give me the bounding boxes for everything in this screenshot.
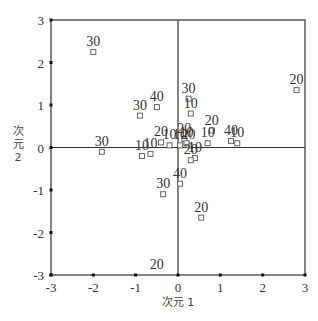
x-tick-label: -1 bbox=[130, 280, 141, 295]
y-tick-mark bbox=[50, 231, 53, 234]
square-marker-icon bbox=[199, 215, 204, 220]
x-tick-label: 2 bbox=[259, 280, 266, 295]
point-label: 30 bbox=[86, 34, 100, 49]
x-tick-label: 0 bbox=[175, 280, 182, 295]
data-point: 10 bbox=[201, 125, 215, 146]
data-point: 20 bbox=[150, 257, 164, 272]
square-marker-icon bbox=[178, 181, 183, 186]
x-tick-label: 3 bbox=[302, 280, 309, 295]
point-label: 30 bbox=[95, 134, 109, 149]
square-marker-icon bbox=[99, 149, 104, 154]
point-label: 10 bbox=[184, 96, 198, 111]
x-tick-label: -3 bbox=[46, 280, 57, 295]
x-tick-label: -2 bbox=[88, 280, 99, 295]
data-point: 30 bbox=[133, 98, 147, 119]
y-tick-label: -3 bbox=[33, 268, 44, 283]
x-tick-mark bbox=[92, 274, 95, 277]
point-label: 30 bbox=[133, 98, 147, 113]
y-axis-title: 次元2 bbox=[13, 124, 24, 164]
x-tick-mark bbox=[261, 274, 264, 277]
y-tick-mark bbox=[50, 189, 53, 192]
y-tick-label: 2 bbox=[38, 56, 45, 71]
point-label: 20 bbox=[184, 142, 198, 157]
y-tick-label: -1 bbox=[33, 183, 44, 198]
square-marker-icon bbox=[188, 111, 193, 116]
square-marker-icon bbox=[167, 143, 172, 148]
square-marker-icon bbox=[154, 105, 159, 110]
y-tick-label: 0 bbox=[38, 141, 45, 156]
x-tick-mark bbox=[304, 274, 307, 277]
square-marker-icon bbox=[294, 88, 299, 93]
y-tick-mark bbox=[50, 146, 53, 149]
data-point: 10 bbox=[184, 96, 198, 117]
point-label: 10 bbox=[230, 125, 244, 140]
data-point: 40 bbox=[150, 89, 164, 110]
svg-text:次: 次 bbox=[13, 124, 24, 138]
point-label: 20 bbox=[290, 72, 304, 87]
point-label: 40 bbox=[150, 89, 164, 104]
scatter-chart: -3-2-10123 3210-1-2-3 302030403010102010… bbox=[0, 0, 318, 321]
data-points: 3020304030101020103010201020102010401010… bbox=[86, 34, 303, 272]
y-tick-mark bbox=[50, 61, 53, 64]
data-point: 20 bbox=[290, 72, 304, 93]
x-axis-title: 次元 1 bbox=[162, 295, 195, 309]
y-axis: 3210-1-2-3 bbox=[33, 13, 52, 283]
square-marker-icon bbox=[188, 158, 193, 163]
svg-text:2: 2 bbox=[15, 151, 22, 164]
data-point: 30 bbox=[156, 176, 170, 197]
square-marker-icon bbox=[161, 192, 166, 197]
data-point: 30 bbox=[86, 34, 100, 55]
square-marker-icon bbox=[205, 141, 210, 146]
y-tick-label: -2 bbox=[33, 226, 44, 241]
data-point: 30 bbox=[95, 134, 109, 155]
point-label: 20 bbox=[150, 257, 164, 272]
x-tick-mark bbox=[177, 274, 180, 277]
square-marker-icon bbox=[148, 151, 153, 156]
point-label: 30 bbox=[182, 81, 196, 96]
svg-text:元: 元 bbox=[13, 138, 24, 151]
y-tick-label: 3 bbox=[38, 13, 45, 28]
y-tick-mark bbox=[50, 104, 53, 107]
point-label: 10 bbox=[201, 125, 215, 140]
square-marker-icon bbox=[178, 143, 183, 148]
y-tick-label: 1 bbox=[38, 98, 45, 113]
point-label: 40 bbox=[173, 166, 187, 181]
data-point: 40 bbox=[173, 166, 187, 187]
y-tick-mark bbox=[50, 19, 53, 22]
square-marker-icon bbox=[91, 49, 96, 54]
x-tick-label: 1 bbox=[217, 280, 224, 295]
x-axis: -3-2-10123 bbox=[46, 274, 309, 296]
y-tick-mark bbox=[50, 274, 53, 277]
square-marker-icon bbox=[235, 141, 240, 146]
square-marker-icon bbox=[140, 154, 145, 159]
square-marker-icon bbox=[137, 113, 142, 118]
x-tick-mark bbox=[219, 274, 222, 277]
x-tick-mark bbox=[134, 274, 137, 277]
point-label: 10 bbox=[179, 125, 193, 140]
point-label: 20 bbox=[194, 200, 208, 215]
point-label: 30 bbox=[156, 176, 170, 191]
data-point: 20 bbox=[194, 200, 208, 221]
